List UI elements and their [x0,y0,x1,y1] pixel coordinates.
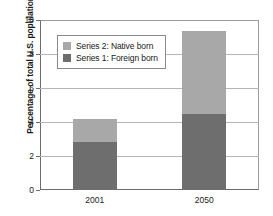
legend: Series 2: Native born Series 1: Foreign … [57,35,166,69]
bar-group [73,119,117,190]
legend-label-foreign-born: Series 1: Foreign born [76,53,158,63]
y-axis-tick-label: 8 [0,49,39,59]
legend-item: Series 2: Native born [63,40,158,52]
legend-item: Series 1: Foreign born [63,52,158,64]
legend-label-native-born: Series 2: Native born [76,41,153,51]
bar-segment-foreign-born [182,114,226,190]
x-axis-tick-label: 2001 [85,195,104,205]
legend-swatch-foreign-born [63,54,71,62]
y-axis-tick-label: 2 [0,151,39,161]
y-axis-tick-mark [36,20,40,21]
y-axis-tick-mark [36,190,40,191]
legend-swatch-native-born [63,42,71,50]
bar-segment-native-born [182,31,226,114]
x-axis-tick-label: 2050 [195,195,214,205]
y-axis-tick-label: 0 [0,185,39,195]
bar-segment-foreign-born [73,142,117,190]
bar-group [182,31,226,190]
bar-segment-native-born [73,119,117,143]
bar-chart: Percentage of total U.S. population 0246… [0,0,273,216]
y-axis-tick-label: 10 [0,15,39,25]
y-axis-tick-label: 6 [0,83,39,93]
y-axis-tick-label: 4 [0,117,39,127]
